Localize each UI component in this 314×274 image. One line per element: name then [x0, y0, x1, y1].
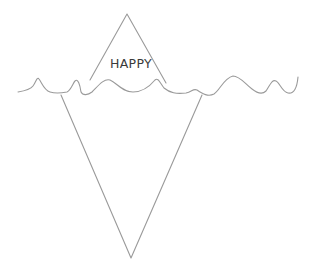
iceberg-drawing	[0, 0, 314, 274]
waterline-wave	[18, 76, 298, 95]
iceberg-diagram: HAPPY	[0, 0, 314, 274]
iceberg-tip-label: HAPPY	[104, 56, 158, 71]
iceberg-tip-outline	[90, 14, 166, 83]
iceberg-submerged-outline	[61, 95, 202, 258]
